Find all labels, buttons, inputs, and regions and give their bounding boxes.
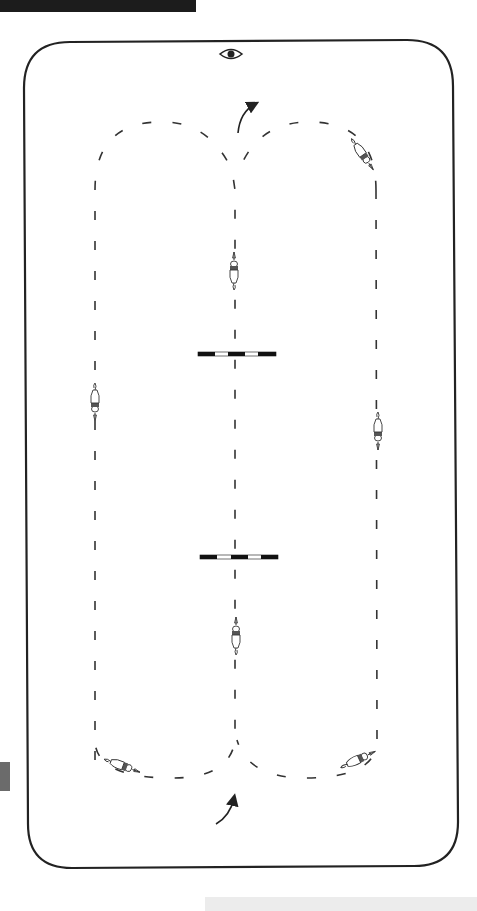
arena-border	[24, 40, 458, 868]
rider-right-icon	[374, 412, 383, 450]
rider-bottom-left-icon	[103, 755, 142, 776]
rider-center-upper-icon	[230, 252, 239, 290]
right-loop-path	[237, 122, 377, 778]
eye-icon	[220, 50, 242, 59]
arena-diagram	[0, 0, 477, 911]
upper-pole	[198, 352, 276, 356]
exit-arrow-top	[238, 104, 255, 133]
lower-pole	[200, 555, 278, 559]
left-loop-path	[95, 122, 235, 778]
rider-top-right-icon	[348, 136, 377, 172]
rider-center-lower-icon	[232, 617, 241, 655]
rider-left-icon	[91, 383, 100, 421]
entry-arrow-bottom	[216, 798, 234, 824]
